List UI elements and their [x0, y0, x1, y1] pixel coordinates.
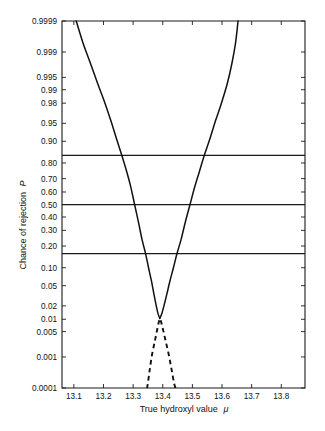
x-tick-label: 13.3: [125, 392, 141, 401]
y-tick-label: 0.99: [41, 86, 57, 95]
y-tick-label: 0.98: [41, 99, 57, 108]
x-tick-label: 13.1: [66, 392, 82, 401]
y-tick-label: 0.02: [41, 302, 57, 311]
y-axis-title-text: Chance of rejection: [18, 192, 28, 270]
y-tick-label: 0.20: [41, 242, 57, 251]
y-tick-label: 0.90: [41, 137, 57, 146]
y-axis-title: Chance of rejection P: [18, 180, 28, 269]
y-tick-label: 0.60: [41, 188, 57, 197]
x-axis-title: True hydroxyl value μ: [140, 404, 229, 414]
y-tick-label: 0.95: [41, 119, 57, 128]
rejection-curve-right-solid: [160, 21, 238, 318]
rejection-curve-right-dashed: [161, 320, 176, 388]
x-tick-label: 13.5: [184, 392, 200, 401]
y-tick-label: 0.40: [41, 213, 57, 222]
x-tick-label: 13.2: [96, 392, 112, 401]
y-tick-label: 0.50: [41, 201, 57, 210]
svg-text:True hydroxyl value μ: True hydroxyl value μ: [140, 404, 229, 414]
y-axis-title-symbol: P: [18, 180, 28, 186]
svg-text:Chance of rejection P: Chance of rejection P: [18, 180, 28, 269]
x-axis-tick-labels: 13.113.213.313.413.513.613.713.8: [66, 392, 290, 401]
x-tick-label: 13.6: [214, 392, 230, 401]
rejection-curve-left-solid: [76, 21, 160, 318]
y-tick-label: 0.10: [41, 264, 57, 273]
y-tick-label: 0.005: [37, 328, 58, 337]
y-tick-label: 0.80: [41, 159, 57, 168]
y-tick-label: 0.999: [37, 48, 58, 57]
y-axis-tick-labels: 0.00010.0010.0050.010.020.050.100.200.30…: [32, 17, 57, 393]
y-tick-label: 0.995: [37, 73, 58, 82]
y-tick-label: 0.70: [41, 175, 57, 184]
reference-lines-group: [62, 155, 305, 253]
y-tick-label: 0.05: [41, 282, 57, 291]
y-tick-label: 0.9999: [32, 17, 57, 26]
rejection-curve-left-dashed: [147, 320, 159, 388]
x-axis-title-text: True hydroxyl value: [140, 404, 218, 414]
probability-plot-figure: 0.00010.0010.0050.010.020.050.100.200.30…: [0, 0, 325, 431]
x-tick-label: 13.4: [155, 392, 171, 401]
y-tick-label: 0.001: [37, 353, 58, 362]
x-tick-label: 13.8: [273, 392, 289, 401]
y-tick-label: 0.01: [41, 315, 57, 324]
y-tick-label: 0.0001: [32, 384, 57, 393]
x-axis-title-symbol: μ: [222, 404, 228, 414]
chart-page: 0.00010.0010.0050.010.020.050.100.200.30…: [0, 0, 325, 431]
x-tick-label: 13.7: [244, 392, 260, 401]
y-tick-label: 0.30: [41, 226, 57, 235]
